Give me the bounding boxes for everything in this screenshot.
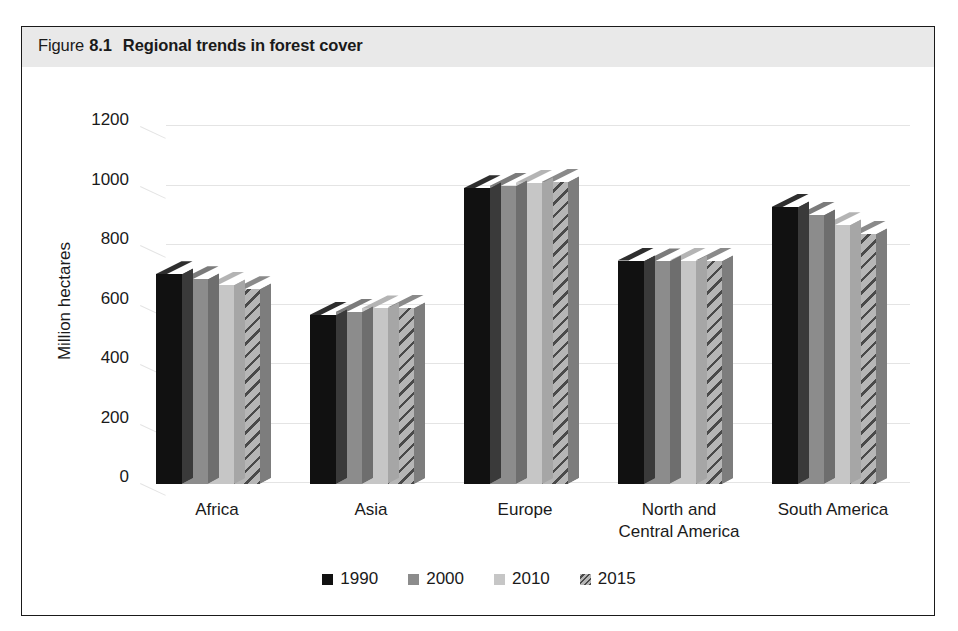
bar-side-face xyxy=(696,255,707,484)
bar-front-face xyxy=(464,188,490,484)
legend-item[interactable]: 2010 xyxy=(494,569,550,589)
x-axis-label: Africa xyxy=(195,499,238,521)
figure-container: Figure8.1Regional trends in forest cover… xyxy=(21,26,935,616)
y-axis-tick-label: 800 xyxy=(101,229,129,249)
bar xyxy=(310,315,336,484)
x-axis-label-line: Central America xyxy=(619,521,740,543)
bar xyxy=(618,261,644,484)
bar-side-face xyxy=(362,306,373,484)
y-axis-tick-label: 1200 xyxy=(91,110,129,130)
x-axis-label-line: Europe xyxy=(498,499,553,521)
bar-side-face xyxy=(260,283,271,484)
bar-front-face xyxy=(618,261,644,484)
bar-group xyxy=(464,127,579,497)
bar-side-face xyxy=(234,279,245,484)
legend-label: 2010 xyxy=(512,569,550,589)
x-axis-label-line: Asia xyxy=(354,499,387,521)
bar-group xyxy=(310,127,425,497)
figure-number: 8.1 xyxy=(89,36,112,54)
x-axis-label-line: North and xyxy=(619,499,740,521)
bar-front-face xyxy=(310,315,336,484)
y-axis-tick-label: 600 xyxy=(101,289,129,309)
legend-label: 1990 xyxy=(340,569,378,589)
x-axis-label-line: South America xyxy=(778,499,889,521)
bar-front-face xyxy=(772,207,798,484)
bar-group xyxy=(772,127,887,497)
bar xyxy=(772,207,798,484)
y-axis-tick-label: 0 xyxy=(120,467,129,487)
bar xyxy=(156,274,182,484)
legend-item[interactable]: 2000 xyxy=(408,569,464,589)
legend-label: 2015 xyxy=(598,569,636,589)
bar-side-face xyxy=(568,176,579,484)
bar-side-face xyxy=(798,201,809,484)
bar-side-face xyxy=(516,180,527,484)
bar-side-face xyxy=(644,255,655,484)
bar-side-face xyxy=(208,273,219,484)
bar-group xyxy=(618,127,733,497)
figure-title: Figure8.1Regional trends in forest cover xyxy=(38,36,363,55)
x-axis-label: Europe xyxy=(498,499,553,521)
bar xyxy=(464,188,490,484)
chart-legend: 1990200020102015 xyxy=(22,569,936,589)
y-axis-title: Million hectares xyxy=(55,242,75,360)
y-axis-tick-label: 400 xyxy=(101,348,129,368)
legend-label: 2000 xyxy=(426,569,464,589)
bar-side-face xyxy=(388,303,399,484)
gridline-flat-segment xyxy=(166,125,910,126)
legend-swatch-hatched-icon xyxy=(580,574,591,585)
figure-caption: Regional trends in forest cover xyxy=(123,36,363,54)
bar-side-face xyxy=(850,219,861,484)
bar-side-face xyxy=(414,302,425,484)
figure-title-band: Figure8.1Regional trends in forest cover xyxy=(22,27,934,67)
x-axis-label: South America xyxy=(778,499,889,521)
plot-area: 020040060080010001200 xyxy=(140,127,910,497)
legend-swatch-light-gray-icon xyxy=(494,574,505,585)
bar-side-face xyxy=(336,309,347,484)
legend-swatch-gray-icon xyxy=(408,574,419,585)
x-axis-labels: AfricaAsiaEuropeNorth andCentral America… xyxy=(140,499,910,559)
legend-swatch-black-icon xyxy=(322,574,333,585)
y-axis-tick-label: 1000 xyxy=(91,170,129,190)
legend-item[interactable]: 2015 xyxy=(580,569,636,589)
x-axis-label-line: Africa xyxy=(195,499,238,521)
bar-front-face xyxy=(156,274,182,484)
legend-item[interactable]: 1990 xyxy=(322,569,378,589)
bars-layer xyxy=(140,127,910,497)
bar-group xyxy=(156,127,271,497)
bar-side-face xyxy=(824,209,835,484)
bar-side-face xyxy=(182,268,193,484)
chart-canvas: Million hectares 020040060080010001200 A… xyxy=(22,67,936,615)
y-axis-tick-label: 200 xyxy=(101,408,129,428)
bar-side-face xyxy=(722,255,733,484)
x-axis-label: North andCentral America xyxy=(619,499,740,543)
bar-side-face xyxy=(876,228,887,484)
figure-label: Figure xyxy=(38,36,84,54)
bar-side-face xyxy=(490,182,501,484)
bar-side-face xyxy=(670,256,681,484)
x-axis-label: Asia xyxy=(354,499,387,521)
bar-side-face xyxy=(542,177,553,484)
